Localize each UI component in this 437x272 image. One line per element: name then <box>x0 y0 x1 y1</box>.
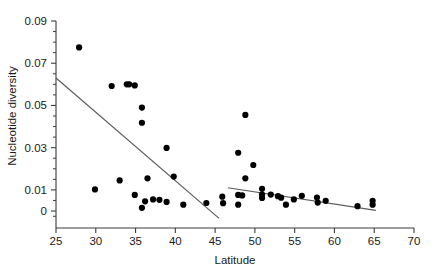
plot-canvas: 2530354045505560657000.010.030.050.070.0… <box>0 0 437 272</box>
data-point <box>291 196 297 202</box>
data-point <box>259 186 265 192</box>
y-tick-label: 0.03 <box>25 142 47 154</box>
y-tick-label: 0.01 <box>25 184 47 196</box>
data-point <box>239 192 245 198</box>
x-tick-label: 25 <box>50 235 63 247</box>
trend-line-northern-trend <box>228 188 376 211</box>
x-tick-label: 70 <box>408 235 421 247</box>
data-point <box>242 112 248 118</box>
scatter-plot-figure: 2530354045505560657000.010.030.050.070.0… <box>0 0 437 272</box>
data-point <box>268 191 274 197</box>
axes <box>51 21 414 233</box>
data-point <box>235 202 241 208</box>
data-point <box>92 186 98 192</box>
x-tick-label: 30 <box>89 235 102 247</box>
x-axis-title: Latitude <box>215 254 256 266</box>
data-point <box>126 81 132 87</box>
data-point <box>283 202 289 208</box>
data-point <box>242 175 248 181</box>
data-point <box>139 205 145 211</box>
data-point <box>171 173 177 179</box>
data-point <box>156 197 162 203</box>
data-point <box>139 104 145 110</box>
x-tick-label: 60 <box>328 235 341 247</box>
data-point <box>250 162 256 168</box>
x-tick-label: 55 <box>288 235 301 247</box>
data-point <box>139 120 145 126</box>
data-point <box>142 198 148 204</box>
trend-lines <box>56 78 376 218</box>
data-point <box>109 83 115 89</box>
data-point <box>219 194 225 200</box>
data-point <box>299 193 305 199</box>
data-point <box>370 202 376 208</box>
data-point <box>163 145 169 151</box>
x-tick-label: 35 <box>129 235 142 247</box>
data-point <box>117 177 123 183</box>
data-point <box>220 200 226 206</box>
data-point <box>150 196 156 202</box>
data-point <box>354 203 360 209</box>
data-point <box>163 199 169 205</box>
y-tick-label: 0.05 <box>25 99 47 111</box>
data-point <box>203 200 209 206</box>
trend-line-southern-trend <box>56 78 219 218</box>
data-point <box>259 195 265 201</box>
data-point <box>132 82 138 88</box>
x-tick-label: 40 <box>169 235 182 247</box>
y-tick-label: 0.09 <box>25 15 47 27</box>
data-point <box>180 202 186 208</box>
data-point <box>235 150 241 156</box>
data-point <box>315 199 321 205</box>
data-point <box>144 175 150 181</box>
data-point <box>323 198 329 204</box>
x-tick-label: 45 <box>209 235 222 247</box>
x-tick-label: 65 <box>368 235 381 247</box>
y-axis-title: Nucleotide diversity <box>6 66 18 166</box>
data-point <box>76 44 82 50</box>
data-point <box>132 192 138 198</box>
y-tick-label: 0.07 <box>25 57 47 69</box>
data-point <box>278 195 284 201</box>
x-tick-label: 50 <box>248 235 261 247</box>
y-tick-label: 0 <box>41 205 47 217</box>
data-points <box>76 44 376 211</box>
